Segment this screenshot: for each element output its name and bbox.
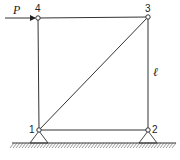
node-2 xyxy=(146,128,150,132)
member-4-1 xyxy=(38,18,39,130)
node-1 xyxy=(37,128,41,132)
node-label-3: 3 xyxy=(145,3,151,14)
node-label-2: 2 xyxy=(152,124,158,135)
length-label: ℓ xyxy=(153,65,158,79)
load-label: P xyxy=(12,3,21,17)
member-1-3 xyxy=(39,17,148,130)
node-4 xyxy=(36,16,40,20)
node-label-1: 1 xyxy=(29,124,35,135)
node-3 xyxy=(146,15,150,19)
ground xyxy=(10,143,176,148)
member-3-4 xyxy=(38,17,148,18)
truss-diagram: P 1 2 3 4 ℓ xyxy=(0,0,180,160)
ground-hatching xyxy=(10,143,176,148)
node-label-4: 4 xyxy=(35,3,41,14)
